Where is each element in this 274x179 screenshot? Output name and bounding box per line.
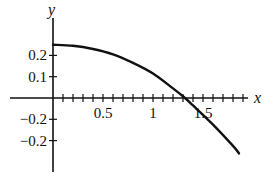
- x-tick-label: 1: [149, 105, 157, 121]
- y-tick-label: 0.1: [28, 69, 47, 85]
- data-curve: [53, 45, 239, 154]
- y-tick-label: −0.2: [20, 111, 47, 127]
- axes: [10, 18, 248, 172]
- x-tick-label: 0.5: [94, 105, 113, 121]
- y-axis-label: y: [46, 1, 56, 19]
- y-tick-label: −0.2: [20, 133, 47, 149]
- x-axis-label: x: [253, 89, 261, 106]
- y-tick-label: 0.2: [28, 47, 47, 63]
- chart: 0.511.5 0.20.1−0.2−0.2 x y: [0, 0, 274, 179]
